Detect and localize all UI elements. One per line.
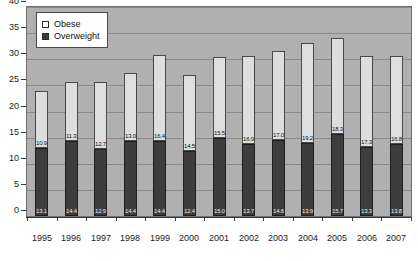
y-tick-label: 25	[9, 75, 19, 84]
x-tick-label: 2005	[320, 233, 354, 243]
bar-segment-overweight	[213, 138, 226, 216]
y-tick-label: 40	[9, 0, 19, 6]
bar-label-overweight: 13.9	[302, 208, 313, 214]
bar-segment-overweight	[272, 140, 285, 216]
y-axis: 0510152025303540	[0, 0, 26, 218]
bar-segment-obese	[272, 51, 285, 140]
bar-label-overweight: 14.4	[66, 208, 77, 214]
x-tick-label: 1996	[54, 233, 88, 243]
bar-label-obese: 17.3	[361, 139, 372, 145]
bar-label-obese: 11.3	[66, 133, 76, 139]
bar-label-obese: 16.8	[391, 136, 402, 142]
bar-label-obese: 18.3	[332, 126, 343, 132]
bar-segment-overweight	[242, 144, 255, 216]
x-tick-mark	[86, 217, 87, 221]
legend-swatch-overweight-icon	[42, 33, 49, 40]
bar-group: 15.515.0	[213, 7, 226, 216]
bar-segment-overweight	[124, 141, 137, 216]
bar-segment-overweight	[94, 149, 107, 216]
bar-segment-obese	[124, 73, 137, 141]
x-axis: 1995199619971998199920002001200220032004…	[26, 217, 412, 261]
bar-segment-obese	[301, 43, 314, 143]
bar-segment-overweight	[35, 148, 48, 216]
bar-group: 17.014.6	[272, 7, 285, 216]
x-tick-mark	[293, 217, 294, 221]
x-tick-mark	[352, 217, 353, 221]
y-tick-label: 10	[9, 154, 19, 163]
bar-label-overweight: 12.9	[95, 208, 106, 214]
bar-group: 16.414.4	[153, 7, 166, 216]
bar-label-obese: 16.9	[243, 136, 254, 142]
bar-segment-overweight	[331, 134, 344, 216]
y-tick-label: 20	[9, 102, 19, 111]
x-tick-mark	[116, 217, 117, 221]
bar-label-overweight: 13.7	[243, 208, 254, 214]
bar-label-obese: 14.5	[184, 143, 195, 149]
y-tick-label: 0	[14, 206, 19, 215]
y-tick-label: 35	[9, 23, 19, 32]
bar-label-obese: 12.7	[95, 141, 106, 147]
bar-segment-overweight	[65, 141, 78, 216]
bar-segment-obese	[331, 38, 344, 134]
bar-label-overweight: 14.4	[154, 208, 165, 214]
bar-segment-obese	[213, 57, 226, 138]
x-tick-label: 2003	[261, 233, 295, 243]
x-tick-mark	[204, 217, 205, 221]
bar-label-overweight: 13.8	[391, 208, 402, 214]
x-tick-mark	[381, 217, 382, 221]
bar-label-overweight: 12.4	[184, 208, 195, 214]
bar-segment-obese	[390, 56, 403, 144]
x-axis-line	[26, 217, 412, 218]
bar-segment-overweight	[301, 143, 314, 216]
bar-segment-obese	[242, 56, 255, 144]
x-tick-label: 2007	[379, 233, 413, 243]
bar-group: 18.315.7	[331, 7, 344, 216]
x-tick-label: 1998	[113, 233, 147, 243]
bar-label-overweight: 15.7	[332, 208, 343, 214]
y-tick-mark	[21, 1, 26, 2]
x-tick-mark	[411, 217, 412, 221]
x-tick-label: 2000	[172, 233, 206, 243]
x-tick-mark	[175, 217, 176, 221]
bar-label-obese: 17.0	[273, 132, 284, 138]
x-tick-mark	[234, 217, 235, 221]
y-tick-label: 30	[9, 49, 19, 58]
bar-label-obese: 15.5	[214, 130, 225, 136]
x-tick-mark	[322, 217, 323, 221]
bar-label-overweight: 13.3	[361, 208, 372, 214]
x-tick-label: 2001	[202, 233, 236, 243]
legend-label-overweight: Overweight	[54, 31, 100, 41]
bar-label-overweight: 13.1	[36, 208, 47, 214]
y-tick-label: 5	[14, 180, 19, 189]
bar-group: 17.313.3	[360, 7, 373, 216]
bar-label-overweight: 15.0	[214, 208, 225, 214]
bar-label-obese: 10.9	[36, 140, 47, 146]
bar-segment-obese	[94, 82, 107, 148]
bar-label-obese: 16.4	[154, 133, 165, 139]
x-tick-mark	[57, 217, 58, 221]
bar-label-overweight: 14.6	[273, 208, 284, 214]
bar-segment-overweight	[153, 141, 166, 216]
bar-segment-obese	[153, 55, 166, 141]
bar-group: 19.213.9	[301, 7, 314, 216]
x-tick-mark	[145, 217, 146, 221]
legend-item-overweight: Overweight	[42, 31, 100, 41]
legend-label-obese: Obese	[54, 19, 81, 29]
bar-label-obese: 19.2	[302, 135, 313, 141]
y-tick-label: 15	[9, 128, 19, 137]
chart-legend: Obese Overweight	[36, 12, 108, 48]
bar-segment-overweight	[390, 144, 403, 216]
bar-label-overweight: 14.4	[125, 208, 136, 214]
bar-segment-obese	[183, 75, 196, 151]
x-tick-mark	[27, 217, 28, 221]
bar-segment-overweight	[183, 151, 196, 216]
bar-group: 16.813.8	[390, 7, 403, 216]
bar-group: 16.913.7	[242, 7, 255, 216]
bar-segment-obese	[360, 56, 373, 146]
bar-group: 14.512.4	[183, 7, 196, 216]
bar-label-obese: 13.0	[125, 133, 136, 139]
bar-group: 13.014.4	[124, 7, 137, 216]
bar-segment-overweight	[360, 147, 373, 216]
obesity-overweight-stacked-bar-chart: 0510152025303540 10.913.111.314.412.712.…	[0, 0, 418, 261]
legend-item-obese: Obese	[42, 19, 100, 29]
